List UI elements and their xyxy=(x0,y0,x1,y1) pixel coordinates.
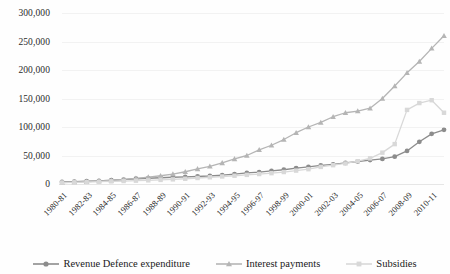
plot-area xyxy=(0,0,450,274)
data-point xyxy=(441,33,447,38)
legend-item[interactable]: Subsidies xyxy=(346,259,416,270)
data-point xyxy=(121,179,125,183)
legend-item[interactable]: Revenue Defence expenditure xyxy=(33,259,190,270)
data-point xyxy=(380,150,384,154)
data-point xyxy=(97,180,101,184)
data-point xyxy=(60,180,64,184)
data-point xyxy=(245,173,249,177)
data-point xyxy=(232,174,236,178)
data-point xyxy=(282,170,286,174)
legend-label: Revenue Defence expenditure xyxy=(63,259,190,270)
data-point xyxy=(158,178,162,182)
data-point xyxy=(343,161,347,165)
data-point xyxy=(405,108,409,112)
data-point xyxy=(417,101,421,105)
series-line xyxy=(62,100,444,182)
data-point xyxy=(319,165,323,169)
series-line xyxy=(62,36,444,183)
series-2 xyxy=(59,33,447,185)
legend-item[interactable]: Interest payments xyxy=(216,259,320,270)
data-point xyxy=(220,174,224,178)
data-point xyxy=(429,131,434,136)
legend-marker-square-icon xyxy=(346,259,372,269)
data-point xyxy=(84,180,88,184)
data-point xyxy=(195,176,199,180)
chart-container: 300,000250,000200,000150,000100,00050,00… xyxy=(0,0,450,274)
data-point xyxy=(72,180,76,184)
data-point xyxy=(208,175,212,179)
data-point xyxy=(392,154,397,159)
data-point xyxy=(269,171,273,175)
data-point xyxy=(171,177,175,181)
series-1 xyxy=(60,127,447,184)
data-point xyxy=(331,163,335,167)
data-point xyxy=(109,179,113,183)
data-point xyxy=(281,137,287,142)
data-point xyxy=(442,127,447,132)
data-point xyxy=(294,168,298,172)
data-point xyxy=(380,157,385,162)
chart-legend: Revenue Defence expenditureInterest paym… xyxy=(0,259,450,270)
data-point xyxy=(368,156,372,160)
series-3 xyxy=(60,98,446,185)
legend-marker-triangle-icon xyxy=(216,259,242,269)
data-point xyxy=(429,98,433,102)
legend-marker-circle-icon xyxy=(33,259,59,269)
data-point xyxy=(306,167,310,171)
data-point xyxy=(257,172,261,176)
data-point xyxy=(146,178,150,182)
legend-label: Subsidies xyxy=(376,259,416,270)
data-point xyxy=(442,111,446,115)
data-point xyxy=(417,139,422,144)
data-point xyxy=(393,142,397,146)
data-point xyxy=(134,178,138,182)
data-point xyxy=(183,177,187,181)
data-point xyxy=(356,159,360,163)
legend-label: Interest payments xyxy=(246,259,320,270)
data-point xyxy=(405,149,410,154)
